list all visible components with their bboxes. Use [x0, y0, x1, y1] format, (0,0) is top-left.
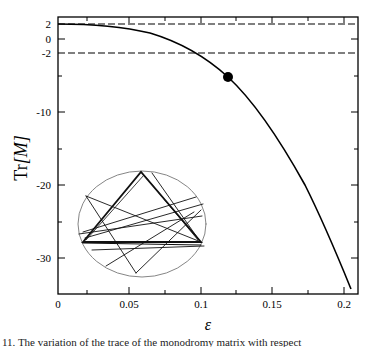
y-axis-title: Tr[M]	[11, 135, 31, 180]
y-axis-ticks	[58, 39, 358, 258]
x-axis-title: ε	[205, 316, 212, 333]
svg-text:-30: -30	[36, 252, 51, 264]
figure-caption: 11. The variation of the trace of the mo…	[0, 337, 372, 347]
svg-text:-10: -10	[36, 106, 51, 118]
svg-text:2: 2	[46, 18, 52, 30]
marker-point	[223, 72, 233, 82]
x-tick-labels: 0 0.05 0.1 0.15 0.2	[55, 298, 351, 310]
svg-text:0: 0	[46, 33, 52, 45]
svg-text:0.05: 0.05	[119, 298, 139, 310]
billiard-trajectory	[79, 172, 204, 273]
svg-text:0: 0	[55, 298, 61, 310]
svg-text:Tr[M]: Tr[M]	[11, 135, 31, 180]
y-tick-labels: 2 0 -2 -10 -20 -30	[36, 18, 51, 264]
svg-text:0.15: 0.15	[262, 298, 282, 310]
svg-text:0.1: 0.1	[194, 298, 208, 310]
plot-frame	[58, 17, 358, 294]
svg-text:-2: -2	[42, 47, 51, 59]
svg-text:0.2: 0.2	[337, 298, 351, 310]
svg-text:-20: -20	[36, 179, 51, 191]
x-axis-ticks	[87, 17, 344, 294]
billiard-inset	[78, 171, 206, 277]
